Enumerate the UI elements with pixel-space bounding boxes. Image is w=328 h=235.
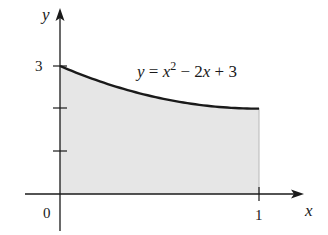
origin-label: 0	[43, 205, 51, 221]
shaded-region	[60, 66, 259, 194]
function-label: y = x2 − 2x + 3	[135, 59, 237, 81]
x-tick-label-1: 1	[255, 207, 263, 223]
x-axis-label: x	[304, 201, 313, 220]
chart-canvas: y x 0 1 3 y = x2 − 2x + 3	[0, 0, 328, 235]
y-tick-label-3: 3	[35, 58, 43, 74]
y-axis-label: y	[40, 5, 50, 24]
